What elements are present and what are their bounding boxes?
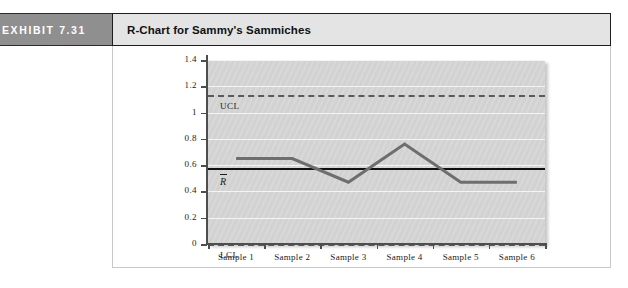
x-axis-tick	[489, 243, 491, 249]
y-axis-tick	[201, 60, 207, 62]
y-axis-tick	[201, 86, 207, 88]
y-axis-tick-label: 0.8	[185, 133, 197, 143]
exhibit-number-label: EXHIBIT 7.31	[0, 24, 86, 36]
x-axis-tick	[264, 243, 266, 249]
y-axis-tick-label: 1.4	[185, 54, 197, 64]
plot-area	[208, 60, 545, 244]
y-axis-tick-label: 0.2	[185, 212, 197, 222]
limit-label-ucl: UCL	[220, 101, 240, 111]
x-axis-tick	[208, 243, 210, 249]
y-axis-tick-label: 0.6	[185, 159, 197, 169]
y-axis-tick	[201, 165, 207, 167]
chart-title-bar: R-Chart for Sammy's Sammiches	[112, 13, 611, 46]
x-axis-tick-label: Sample 6	[489, 252, 545, 262]
y-axis-tick-label: 1.2	[185, 80, 197, 90]
y-axis-tick	[201, 191, 207, 193]
x-axis-tick	[377, 243, 379, 249]
y-axis-tick	[201, 139, 207, 141]
limit-label-lcl: LCL	[220, 250, 239, 260]
x-axis-tick-label: Sample 4	[377, 252, 433, 262]
x-axis-tick	[320, 243, 322, 249]
rbar-glyph: R	[220, 176, 227, 187]
y-axis-tick-label: 1	[192, 107, 197, 117]
x-axis-tick	[545, 243, 547, 249]
y-axis-tick-label: 0.4	[185, 185, 197, 195]
y-axis-tick	[201, 244, 207, 246]
x-axis-tick-label: Sample 5	[433, 252, 489, 262]
x-axis-tick-label: Sample 2	[264, 252, 320, 262]
x-axis-tick-label: Sample 3	[320, 252, 376, 262]
y-axis-tick	[201, 113, 207, 115]
limit-label-rbar: R	[220, 176, 227, 187]
series-sample-range	[236, 144, 517, 182]
y-axis-tick	[201, 218, 207, 220]
series-line-chart	[208, 60, 545, 244]
exhibit-label-bar: EXHIBIT 7.31	[0, 13, 112, 46]
r-chart-figure: 00.20.40.60.811.21.4 Sample 1Sample 2Sam…	[160, 55, 560, 260]
y-axis-tick-label: 0	[192, 238, 197, 248]
page-title: R-Chart for Sammy's Sammiches	[113, 24, 311, 36]
y-axis	[206, 55, 208, 244]
x-axis-tick	[433, 243, 435, 249]
